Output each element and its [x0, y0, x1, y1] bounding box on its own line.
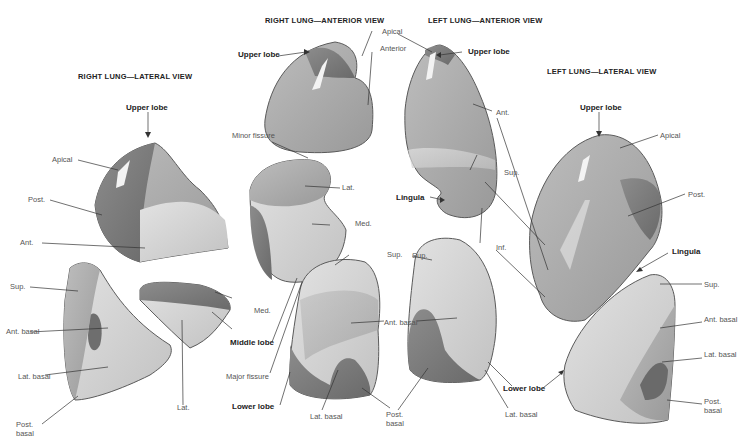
label-ra-minor-fissure: Minor fissure [232, 131, 275, 140]
label-ra-upper-lobe: Upper lobe [238, 50, 280, 59]
label-rl-upper-lobe: Upper lobe [126, 103, 168, 112]
label-ra-lat: Lat. [342, 183, 355, 192]
label-ll-post-basal: Post. basal [704, 397, 738, 415]
right-anterior-upper-lobe [265, 42, 373, 153]
label-ll-lingula: Lingula [672, 247, 700, 256]
label-la-lower-lobe: Lower lobe [503, 384, 545, 393]
label-ra-anterior: Anterior [380, 44, 406, 53]
label-ra-lower-lobe: Lower lobe [232, 402, 274, 411]
label-la-inf: Inf. [496, 243, 506, 252]
view-title-right-anterior: RIGHT LUNG—ANTERIOR VIEW [265, 16, 384, 25]
label-ra-apical: Apical [382, 27, 402, 36]
label-ll-upper-lobe: Upper lobe [580, 103, 622, 112]
view-title-left-anterior: LEFT LUNG—ANTERIOR VIEW [428, 16, 543, 25]
label-rl-sup: Sup. [10, 282, 25, 291]
label-la-lat-basal: Lat. basal [505, 410, 539, 419]
label-ra-sup: Sup. [387, 250, 402, 259]
right-lateral-upper-lobe [95, 143, 228, 262]
label-rl-ant-basal: Ant. basal [6, 327, 40, 336]
label-rl-lat-basal: Lat. basal [18, 372, 52, 381]
label-ra-middle-lobe: Middle lobe [230, 338, 274, 347]
label-ra-lat-basal: Lat. basal [310, 412, 344, 421]
label-ll-post: Post. [688, 190, 705, 199]
label-rl-ant: Ant. [20, 238, 33, 247]
label-ra-med-middle: Med. [254, 306, 271, 315]
left-anterior-upper-lobe [405, 45, 497, 218]
label-la-sup-lower: Sup. [412, 251, 427, 260]
label-ra-med: Med. [355, 219, 372, 228]
label-la-upper-lobe: Upper lobe [468, 47, 510, 56]
label-rl-lat: Lat. [177, 403, 190, 412]
label-ll-apical: Apical [660, 131, 680, 140]
label-ll-ant-basal: Ant. basal [704, 315, 738, 324]
view-title-right-lateral: RIGHT LUNG—LATERAL VIEW [78, 72, 192, 81]
label-rl-post-basal: Post. basal [16, 420, 50, 438]
label-ra-post-basal: Post. basal [386, 410, 420, 428]
view-title-left-lateral: LEFT LUNG—LATERAL VIEW [547, 67, 657, 76]
label-ra-ant-basal: Ant. basal [384, 318, 418, 327]
label-rl-apical: Apical [52, 155, 72, 164]
label-rl-post: Post. [28, 195, 45, 204]
label-la-lingula: Lingula [396, 193, 424, 202]
label-ra-major-fissure: Major fissure [226, 372, 269, 381]
label-ll-sup: Sup. [704, 280, 719, 289]
label-ll-lat-basal: Lat. basal [704, 350, 738, 359]
label-la-ant: Ant. [496, 108, 509, 117]
label-la-sup: Sup. [504, 168, 519, 177]
